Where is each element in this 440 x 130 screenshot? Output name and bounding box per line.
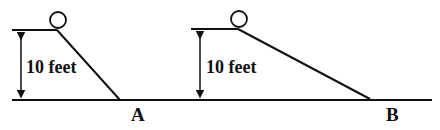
ball-a <box>50 12 66 28</box>
ramp-b <box>191 11 370 99</box>
height-label-b: 10 feet <box>206 57 256 78</box>
ramp-a <box>12 12 120 100</box>
end-label-b: B <box>386 104 399 126</box>
ball-b <box>231 11 247 27</box>
end-label-a: A <box>131 104 145 126</box>
slope-b <box>238 29 370 99</box>
height-label-a: 10 feet <box>26 57 76 78</box>
